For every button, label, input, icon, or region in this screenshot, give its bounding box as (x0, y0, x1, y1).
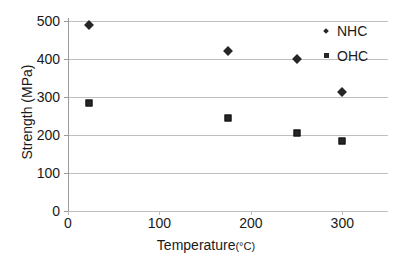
y-tick-label: 100 (37, 166, 60, 180)
x-tick-label: 0 (48, 216, 88, 230)
legend: NHCOHC (318, 18, 402, 68)
y-axis-title: Strength (MPa) (20, 37, 34, 187)
legend-swatch (323, 28, 329, 34)
diamond-marker-icon (318, 29, 334, 33)
x-tick-label: 100 (139, 216, 179, 230)
scatter-chart: 0100200300400500 0100200300 Strength (MP… (0, 0, 404, 267)
y-tick-label: 200 (37, 128, 60, 142)
square-marker-icon (318, 53, 334, 58)
y-tick-label: 500 (37, 14, 60, 28)
y-tick-label: 300 (37, 90, 60, 104)
x-tick-label: 300 (322, 216, 362, 230)
x-tick-label: 200 (231, 216, 271, 230)
legend-label: OHC (337, 49, 368, 63)
x-axis-unit: (°C) (235, 240, 255, 252)
legend-swatch (324, 53, 329, 58)
data-point-ohc (86, 99, 93, 106)
x-axis-title: Temperature(°C) (68, 238, 344, 254)
legend-label: NHC (337, 24, 367, 38)
gridline (68, 211, 388, 212)
data-point-ohc (293, 129, 300, 136)
data-point-ohc (339, 137, 346, 144)
y-tick-label: 400 (37, 52, 60, 66)
legend-item-ohc[interactable]: OHC (318, 43, 402, 68)
data-point-ohc (225, 114, 232, 121)
x-axis-title-text: Temperature (157, 237, 236, 253)
legend-item-nhc[interactable]: NHC (318, 18, 402, 43)
